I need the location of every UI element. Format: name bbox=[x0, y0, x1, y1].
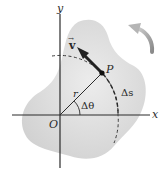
rotation-arrow-head bbox=[128, 23, 141, 34]
radius-label: r bbox=[73, 89, 78, 99]
velocity-vector-arrow-icon: → bbox=[68, 36, 74, 43]
y-axis-label: y bbox=[57, 3, 63, 14]
rotation-direction-arrow bbox=[139, 29, 152, 52]
point-p-label: P bbox=[106, 64, 113, 75]
angle-label: Δθ bbox=[81, 101, 94, 111]
diagram-graphic bbox=[0, 0, 162, 178]
rigid-body-diagram: y x O P r Δθ Δs v → bbox=[0, 0, 162, 178]
point-p bbox=[99, 70, 104, 75]
x-axis-label: x bbox=[152, 109, 158, 120]
arc-length-label: Δs bbox=[121, 88, 133, 98]
origin-label: O bbox=[49, 119, 58, 130]
